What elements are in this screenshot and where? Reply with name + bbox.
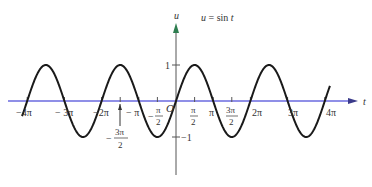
x-tick-label-3pi: 3π — [288, 107, 298, 118]
x-tick-label-4pi: 4π — [326, 107, 336, 118]
y-tick-label-1: 1 — [165, 60, 170, 71]
x-tick-label-pi2-den: 2 — [191, 117, 196, 127]
x-axis-label: t — [363, 96, 366, 107]
x-tick-label-pi2-num: π — [191, 105, 196, 115]
y-axis-arrow-icon — [173, 23, 179, 33]
x-axis-arrow-icon — [348, 98, 358, 104]
x-tick-label-negpi: − π — [126, 107, 139, 118]
x-tick-label-neg3pi2-den: 2 — [118, 140, 123, 150]
x-tick-label-negpi2-minus: − — [148, 111, 154, 122]
sine-chart: u u = sin t t O 1 −1 −4π − 3π −2π − π − … — [0, 0, 372, 187]
x-tick-label-negpi2-num: π — [156, 105, 161, 115]
neg3pi2-pointer-arrow-icon — [118, 104, 122, 110]
x-tick-label-neg3pi: − 3π — [55, 107, 73, 118]
y-tick-label-minus-1: −1 — [181, 132, 192, 143]
x-tick-label-neg3pi2-num: 3π — [115, 127, 125, 137]
x-tick-label-neg2pi: −2π — [93, 107, 109, 118]
y-axis-label: u — [174, 10, 179, 21]
x-tick-label-neg3pi2-minus: − — [106, 133, 112, 144]
x-tick-label-3pi2-den: 2 — [229, 117, 234, 127]
x-tick-label-neg4pi: −4π — [16, 107, 32, 118]
x-tick-label-2pi: 2π — [252, 107, 262, 118]
x-tick-label-3pi2-num: 3π — [226, 105, 236, 115]
chart-title: u = sin t — [201, 12, 234, 23]
x-tick-label-pi: π — [209, 107, 214, 118]
x-tick-label-negpi2-den: 2 — [156, 117, 161, 127]
origin-label: O — [166, 102, 174, 114]
